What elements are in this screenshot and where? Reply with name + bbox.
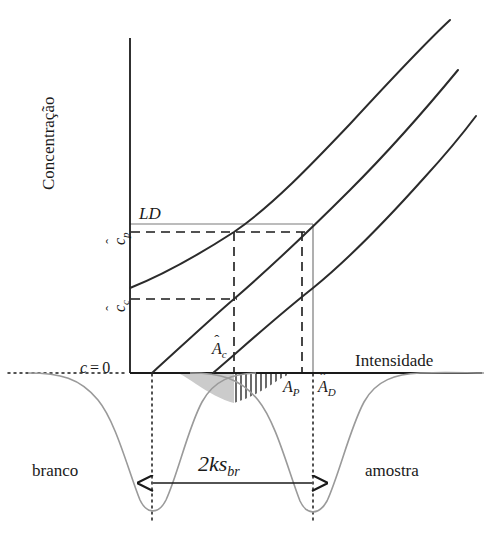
x-axis-title: Intensidade bbox=[355, 352, 433, 369]
c-zero-label: c=0 bbox=[80, 360, 110, 376]
hat-accent-icon: ˆ bbox=[214, 332, 219, 347]
c-zero-equals: = bbox=[90, 359, 99, 376]
blank-peak-label: branco bbox=[32, 462, 78, 479]
x-tick-a-p: AP bbox=[283, 379, 300, 398]
measure-label-2ksbr: 2ksbr bbox=[198, 453, 240, 479]
calibration-curves bbox=[130, 20, 476, 373]
middle-calibration-line bbox=[152, 70, 458, 373]
c-zero-value: 0 bbox=[102, 359, 110, 376]
x-tick-a-hat-c-base: ˆA bbox=[212, 341, 222, 357]
y-tick-c-hat-p: ˆcp bbox=[112, 232, 131, 245]
shaded-regions bbox=[180, 373, 292, 403]
hat-accent-icon: ˆ bbox=[103, 239, 118, 244]
hat-accent-icon: ˆ bbox=[103, 306, 118, 311]
x-tick-a-hat-d-sub: D bbox=[328, 386, 336, 398]
x-tick-a-hat-c-sub: c bbox=[222, 348, 227, 360]
sample-peak-label: amostra bbox=[365, 462, 419, 479]
y-tick-c-hat-c: ˆcc bbox=[112, 300, 131, 312]
y-tick-c-hat-p-base: ˆc bbox=[112, 238, 128, 245]
measure-label-sub: br bbox=[227, 464, 239, 479]
axes bbox=[130, 38, 482, 373]
figure-canvas: Concentração Intensidade LD c=0 ˆcp ˆcc … bbox=[0, 0, 491, 554]
dotted-reference-lines bbox=[8, 373, 313, 520]
x-tick-a-p-sub: P bbox=[293, 386, 300, 398]
hat-accent-icon: ˆ bbox=[320, 370, 325, 385]
x-tick-a-p-base: A bbox=[283, 379, 293, 395]
y-tick-c-hat-c-base: ˆc bbox=[112, 305, 128, 312]
ld-label: LD bbox=[139, 205, 161, 222]
lower-calibration-curve bbox=[213, 116, 476, 373]
c-zero-symbol: c bbox=[80, 359, 87, 376]
y-axis-title: Concentração bbox=[40, 97, 57, 190]
x-tick-a-hat-d: ˆAD bbox=[318, 379, 336, 398]
measure-label-main: 2ks bbox=[198, 451, 227, 476]
x-tick-a-hat-d-base: ˆA bbox=[318, 379, 328, 395]
x-tick-a-hat-c: ˆAc bbox=[212, 341, 227, 360]
